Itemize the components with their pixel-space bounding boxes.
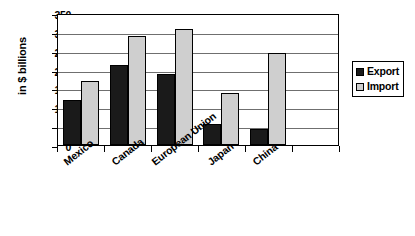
bar-import-canada xyxy=(128,36,146,145)
legend-swatch-import-icon xyxy=(356,83,364,91)
legend-label-export: Export xyxy=(367,65,399,78)
bar-export-china xyxy=(250,129,268,145)
legend-item-import: Import xyxy=(356,80,399,93)
x-tick-mark xyxy=(57,146,58,152)
bar-import-japan xyxy=(221,93,239,145)
bar-group-empty xyxy=(291,15,338,145)
bar-group-canada xyxy=(105,15,152,145)
x-tick-mark xyxy=(245,146,246,152)
x-tick-mark xyxy=(198,146,199,152)
legend-swatch-export-icon xyxy=(356,68,364,76)
bar-chart: in $ billions 350 300 250 200 150 100 50… xyxy=(0,0,415,236)
y-axis-title: in $ billions xyxy=(16,6,28,126)
legend-label-import: Import xyxy=(367,80,398,93)
bar-export-canada xyxy=(110,65,128,145)
x-tick-mark xyxy=(151,146,152,152)
bar-export-european-union xyxy=(157,74,175,145)
bar-group-mexico xyxy=(58,15,105,145)
bar-import-mexico xyxy=(81,81,99,145)
legend: Export Import xyxy=(352,61,404,97)
x-tick-mark xyxy=(339,146,340,152)
x-tick-mark xyxy=(104,146,105,152)
x-tick-mark xyxy=(292,146,293,152)
legend-item-export: Export xyxy=(356,65,399,78)
bar-group-china xyxy=(245,15,292,145)
bar-import-china xyxy=(268,53,286,145)
bar-export-mexico xyxy=(63,100,81,145)
